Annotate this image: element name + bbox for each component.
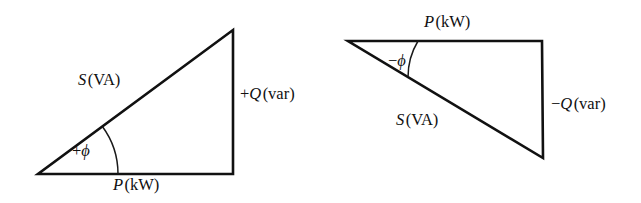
lagging-apparent-power-label: S (VA)	[78, 72, 120, 89]
leading-triangle-group	[348, 41, 543, 158]
leading-apparent-power-label: S (VA)	[396, 112, 438, 129]
power-triangle-svg	[0, 0, 641, 203]
leading-phase-angle-label: −ϕ	[388, 53, 406, 70]
lagging-reactive-power-label: +Q (var)	[240, 86, 295, 103]
lagging-triangle-outline	[38, 30, 233, 174]
leading-reactive-power-label: −Q (var)	[551, 96, 606, 113]
leading-angle-arc	[408, 41, 418, 77]
lagging-real-power-label: P (kW)	[113, 177, 159, 194]
leading-triangle-outline	[348, 41, 543, 158]
leading-real-power-label: P (kW)	[424, 14, 470, 31]
lagging-angle-arc	[102, 127, 118, 175]
lagging-phase-angle-label: +ϕ	[72, 143, 90, 160]
power-triangle-figure: S (VA) +Q (var) P (kW) +ϕ S (VA) −Q (var…	[0, 0, 641, 203]
lagging-triangle-group	[38, 30, 233, 174]
